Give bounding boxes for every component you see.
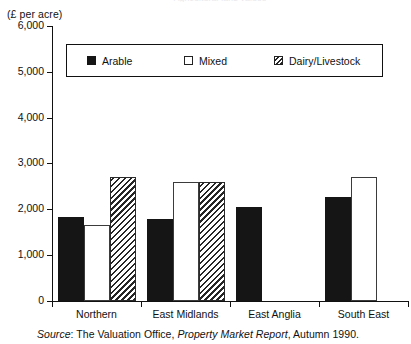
y-axis-tick-label: 4,000: [18, 111, 44, 123]
y-axis-tick-label: 0: [38, 294, 44, 306]
legend-item-arable: Arable: [87, 55, 132, 67]
y-axis-tick-label: 2,000: [18, 202, 44, 214]
legend-item-mixed: Mixed: [184, 55, 227, 67]
bar-chart-figure: Agricultural land values (£ per acre) 01…: [0, 0, 411, 344]
y-axis-tick-label: 5,000: [18, 65, 44, 77]
x-axis-tick: [408, 301, 409, 307]
open-white-swatch: [184, 56, 193, 65]
bar-east-midlands-dairy-livestock: [199, 182, 225, 301]
y-axis-tick-label: 3,000: [18, 156, 44, 168]
bar-east-midlands-arable: [147, 219, 173, 301]
bar-east-anglia-arable: [236, 207, 262, 301]
legend-label: Arable: [102, 55, 132, 67]
legend-item-dairy-livestock: Dairy/Livestock: [274, 55, 360, 67]
source-note-tail: , Autumn 1990.: [288, 328, 359, 340]
legend-label: Dairy/Livestock: [289, 55, 360, 67]
source-note-lead: Source: [37, 328, 71, 340]
x-axis-label-south-east: South East: [338, 308, 389, 320]
source-note: Source: The Valuation Office, Property M…: [37, 328, 359, 340]
y-axis-tick-label: 1,000: [18, 248, 44, 260]
legend-label: Mixed: [199, 55, 227, 67]
y-axis-tick-label: 6,000: [18, 19, 44, 31]
bar-east-midlands-mixed: [173, 182, 199, 301]
bar-northern-mixed: [84, 225, 110, 301]
bar-northern-dairy-livestock: [110, 177, 136, 301]
bar-northern-arable: [58, 217, 84, 301]
x-axis-label-east-midlands: East Midlands: [153, 308, 219, 320]
solid-black-swatch: [87, 56, 96, 65]
x-axis-label-northern: Northern: [76, 308, 117, 320]
diagonal-hatch-swatch: [274, 56, 283, 65]
figure-title-clipped: Agricultural land values: [120, 0, 320, 2]
x-axis-label-east-anglia: East Anglia: [248, 308, 301, 320]
bar-south-east-mixed: [351, 177, 377, 301]
legend: ArableMixedDairy/Livestock: [66, 44, 383, 77]
source-note-after-lead: : The Valuation Office,: [71, 328, 178, 340]
source-note-publication: Property Market Report: [177, 328, 287, 340]
bar-south-east-arable: [325, 197, 351, 301]
